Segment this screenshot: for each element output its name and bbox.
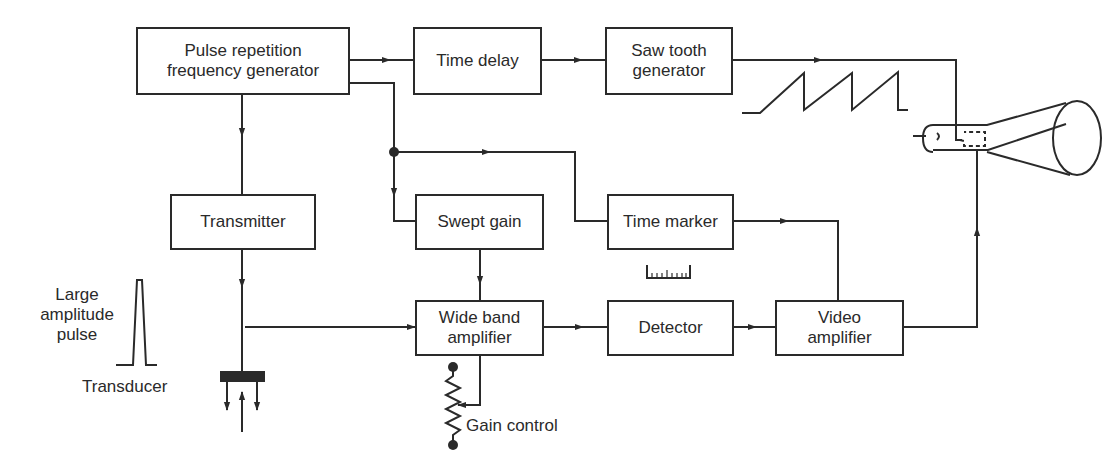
prf-generator-block: Pulse repetition frequency generator bbox=[136, 27, 350, 95]
sawtooth-generator-block: Saw tooth generator bbox=[605, 27, 733, 95]
pulse-label-line1: Large bbox=[22, 285, 132, 305]
sawtooth-label-line2: generator bbox=[633, 61, 706, 81]
pulse-label: Large amplitude pulse bbox=[22, 285, 132, 345]
transducer-label: Transducer bbox=[82, 377, 167, 397]
sawtooth-label-line1: Saw tooth bbox=[631, 41, 707, 61]
prf-label-line2: frequency generator bbox=[167, 61, 319, 81]
time-delay-label: Time delay bbox=[436, 51, 519, 71]
wide-band-amplifier-block: Wide band amplifier bbox=[415, 300, 544, 356]
swept-gain-block: Swept gain bbox=[415, 194, 544, 250]
detector-label: Detector bbox=[638, 318, 702, 338]
transmitter-block: Transmitter bbox=[170, 194, 316, 250]
transmitter-label: Transmitter bbox=[200, 212, 285, 232]
pulse-label-line2: amplitude bbox=[22, 305, 132, 325]
video-amplifier-block: Video amplifier bbox=[775, 300, 904, 356]
gain-control-label: Gain control bbox=[466, 416, 558, 436]
time-marker-block: Time marker bbox=[607, 194, 734, 250]
wideband-label-line2: amplifier bbox=[447, 328, 511, 348]
prf-label-line1: Pulse repetition bbox=[184, 41, 301, 61]
wideband-label-line1: Wide band bbox=[439, 308, 520, 328]
pulse-label-line3: pulse bbox=[22, 325, 132, 345]
time-delay-block: Time delay bbox=[413, 27, 542, 95]
swept-gain-label: Swept gain bbox=[437, 212, 521, 232]
time-marker-label: Time marker bbox=[623, 212, 718, 232]
video-label-line1: Video bbox=[818, 308, 861, 328]
detector-block: Detector bbox=[607, 300, 734, 356]
video-label-line2: amplifier bbox=[807, 328, 871, 348]
